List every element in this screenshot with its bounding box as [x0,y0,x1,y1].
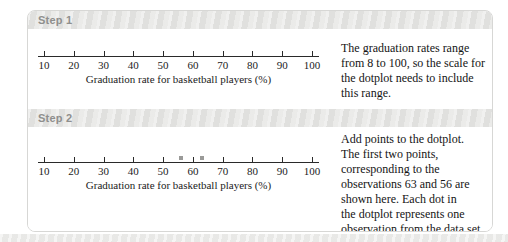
axis-tick-label: 40 [121,59,145,71]
axis-tick [44,157,45,162]
axis-tick [104,51,105,56]
axis-tick [282,51,283,56]
step2-header-band: Step 2 [28,109,492,127]
step1-header-label: Step 1 [38,14,72,26]
data-point-dot [179,156,183,160]
axis-line [38,162,319,163]
axis-tick [104,157,105,162]
axis-tick-label: 20 [62,165,86,177]
axis-tick-label: 60 [181,59,205,71]
axis-tick-label: 100 [300,59,324,71]
axis-tick [252,157,253,162]
axis-tick-label: 40 [121,165,145,177]
axis-tick [163,51,164,56]
axis-tick [133,51,134,56]
axis-tick [312,157,313,162]
step1-section: Graduation rate for basketball players (… [28,29,492,109]
axis-tick-label: 90 [270,165,294,177]
step2-dotplot: Graduation rate for basketball players (… [38,135,338,193]
axis-tick-label: 20 [62,59,86,71]
bottom-edge-strip [0,234,508,242]
axis-tick-label: 10 [32,165,56,177]
step2-section: Graduation rate for basketball players (… [28,127,492,231]
axis-tick-label: 10 [32,59,56,71]
axis-tick-label: 70 [211,59,235,71]
axis-tick [44,51,45,56]
axis-tick-label: 30 [92,59,116,71]
axis-tick-label: 90 [270,59,294,71]
axis-tick-label: 80 [240,59,264,71]
axis-tick [223,157,224,162]
step1-header-band: Step 1 [28,11,492,29]
axis-tick-label: 30 [92,165,116,177]
axis-tick [133,157,134,162]
step1-dotplot: Graduation rate for basketball players (… [38,29,338,87]
axis-line [38,56,319,57]
axis-tick [193,157,194,162]
axis-tick-label: 50 [151,59,175,71]
axis-tick [282,157,283,162]
axis-tick [312,51,313,56]
data-point-dot [200,156,204,160]
axis-tick [74,51,75,56]
axis-tick [74,157,75,162]
step1-axis-title: Graduation rate for basketball players (… [38,73,319,85]
step2-explanation: Add points to the dotplot. The first two… [341,132,493,232]
axis-tick [193,51,194,56]
steps-card: Step 1 Graduation rate for basketball pl… [27,10,493,232]
step2-axis-title: Graduation rate for basketball players (… [38,179,319,191]
axis-tick-label: 80 [240,165,264,177]
axis-tick [252,51,253,56]
axis-tick-label: 50 [151,165,175,177]
step2-header-label: Step 2 [38,112,72,124]
axis-tick [163,157,164,162]
axis-tick-label: 60 [181,165,205,177]
axis-tick [223,51,224,56]
step1-explanation: The graduation rates range from 8 to 100… [341,41,493,101]
axis-tick-label: 70 [211,165,235,177]
axis-tick-label: 100 [300,165,324,177]
